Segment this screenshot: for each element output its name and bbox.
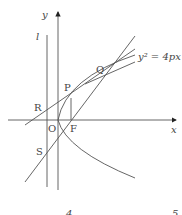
- choice-number-4: 4: [65, 208, 72, 215]
- directrix-label: l: [36, 31, 39, 42]
- point-r-label: R: [34, 102, 42, 113]
- y-axis-label: y: [41, 9, 48, 20]
- x-axis-label: x: [171, 124, 177, 135]
- parabola-diagram: y l x O F P Q R S y² = 4px 4 5: [0, 0, 182, 215]
- point-s-label: S: [36, 146, 43, 157]
- line-rpq: [25, 49, 135, 125]
- choice-number-5: 5: [172, 208, 178, 215]
- point-q-label: Q: [96, 64, 104, 75]
- origin-label: O: [48, 123, 56, 134]
- curve-equation-label: y² = 4px: [137, 51, 181, 62]
- point-f-label: F: [70, 123, 77, 134]
- point-p-label: P: [64, 82, 71, 93]
